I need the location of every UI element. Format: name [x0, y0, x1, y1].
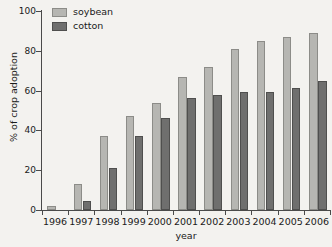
bar-soybean-1997 — [74, 184, 83, 210]
x-tick — [251, 211, 252, 215]
x-tick — [42, 211, 43, 215]
bar-soybean-1999 — [126, 116, 135, 210]
x-tick-label: 1997 — [68, 216, 94, 227]
bar-chart: soybean cotton 020406080100 199619971998… — [0, 0, 332, 247]
bar-cotton-2005 — [292, 88, 301, 210]
x-tick — [304, 211, 305, 215]
x-tick — [199, 211, 200, 215]
plot-area — [42, 11, 330, 210]
x-axis-line — [41, 210, 331, 211]
bar-soybean-1996 — [47, 206, 56, 210]
x-tick-label: 2001 — [173, 216, 199, 227]
bar-soybean-2003 — [231, 49, 240, 210]
y-axis-title: % of crop adoption — [9, 37, 19, 157]
x-tick — [121, 211, 122, 215]
bar-soybean-2005 — [283, 37, 292, 210]
x-tick — [68, 211, 69, 215]
bar-soybean-2004 — [257, 41, 266, 210]
bar-soybean-2002 — [204, 67, 213, 210]
x-tick — [225, 211, 226, 215]
y-tick-label: 0 — [8, 206, 36, 215]
x-tick — [173, 211, 174, 215]
x-tick-label: 2000 — [147, 216, 173, 227]
x-tick-label: 2003 — [225, 216, 251, 227]
y-tick-label: 100 — [8, 7, 36, 16]
x-tick-label: 2004 — [251, 216, 277, 227]
bar-soybean-2006 — [309, 33, 318, 210]
bar-soybean-2000 — [152, 103, 161, 210]
bar-soybean-1998 — [100, 136, 109, 210]
x-tick-label: 1998 — [94, 216, 120, 227]
x-tick-label: 2006 — [304, 216, 330, 227]
x-tick — [278, 211, 279, 215]
bar-cotton-2000 — [161, 118, 170, 210]
y-tick-label: 20 — [8, 166, 36, 175]
x-tick-label: 2005 — [278, 216, 304, 227]
x-tick-label: 2002 — [199, 216, 225, 227]
bar-cotton-2001 — [187, 98, 196, 210]
x-axis-title: year — [41, 230, 331, 241]
bar-cotton-2004 — [266, 92, 275, 210]
bar-cotton-1998 — [109, 168, 118, 210]
x-tick — [94, 211, 95, 215]
bar-cotton-2002 — [213, 95, 222, 210]
bar-cotton-1999 — [135, 136, 144, 210]
x-tick — [330, 211, 331, 215]
x-tick-label: 1999 — [121, 216, 147, 227]
bar-cotton-1997 — [83, 201, 92, 210]
bar-cotton-2006 — [318, 81, 327, 210]
x-tick-label: 1996 — [42, 216, 68, 227]
x-tick — [147, 211, 148, 215]
bar-soybean-2001 — [178, 77, 187, 210]
bar-cotton-2003 — [240, 92, 249, 210]
